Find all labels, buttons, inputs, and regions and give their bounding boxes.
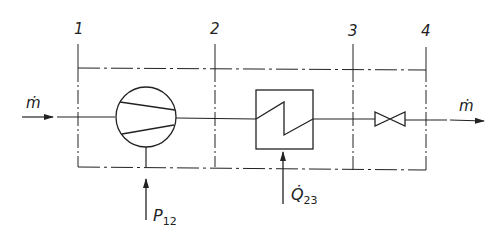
mass-flow-out-label: ṁ xyxy=(459,97,474,115)
state-label-3: 3 xyxy=(348,22,358,40)
heat-input: Q̇23 xyxy=(283,152,318,207)
pipe-1-2 xyxy=(176,118,256,119)
heat-label: Q̇23 xyxy=(291,185,318,207)
throttle-valve-symbol xyxy=(375,112,405,126)
mass-flow-in-label: ṁ xyxy=(26,94,41,112)
state-label-4: 4 xyxy=(421,22,431,40)
state-lines xyxy=(78,44,426,170)
process-diagram: 1 2 3 4 ṁ xyxy=(0,0,499,236)
power-label: P12 xyxy=(153,206,177,228)
heat-exchanger-symbol xyxy=(256,90,313,149)
outlet-flow: ṁ xyxy=(405,97,484,121)
inlet-flow: ṁ xyxy=(22,94,115,117)
compressor-symbol xyxy=(116,87,176,147)
power-input: P12 xyxy=(146,147,177,228)
state-label-1: 1 xyxy=(74,20,84,38)
state-label-2: 2 xyxy=(210,20,220,38)
